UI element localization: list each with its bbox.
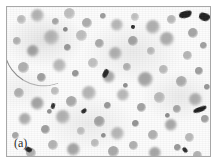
- debris-particle: [182, 146, 189, 153]
- cell-blob: [160, 32, 174, 46]
- debris-particle: [131, 25, 135, 29]
- cell-blob: [109, 47, 122, 60]
- cell-blob: [47, 109, 52, 114]
- cell-blob: [13, 37, 21, 45]
- cell-blob: [31, 9, 44, 22]
- cell-blob: [91, 139, 99, 147]
- cell-blob: [88, 58, 98, 68]
- debris-particle: [198, 12, 210, 22]
- cell-blob: [123, 83, 128, 88]
- fiber-artifact: [7, 44, 58, 95]
- cell-blob: [27, 45, 39, 57]
- cell-blob: [137, 103, 146, 112]
- cell-blob: [188, 28, 198, 38]
- cell-blob: [82, 86, 96, 100]
- cell-blob: [100, 13, 106, 19]
- cell-blob: [154, 92, 165, 103]
- cell-blob: [123, 63, 131, 71]
- figure-panel: (a): [0, 0, 217, 164]
- cell-blob: [148, 130, 158, 140]
- film-grain-overlay: [7, 7, 210, 156]
- cell-blob: [18, 62, 29, 73]
- cell-blob: [128, 36, 138, 46]
- cell-blob: [165, 119, 177, 131]
- cell-blob: [77, 127, 85, 135]
- cell-blob: [103, 71, 115, 83]
- cell-blob: [159, 65, 168, 74]
- cell-blob: [44, 30, 59, 45]
- cell-blob: [165, 113, 170, 118]
- cell-blob: [72, 70, 79, 77]
- cell-blob: [64, 44, 71, 51]
- cell-blob: [111, 19, 123, 31]
- cell-blob: [111, 127, 124, 140]
- cell-blob: [146, 20, 160, 34]
- cell-blob: [63, 27, 68, 32]
- cell-blob: [201, 115, 209, 123]
- cell-blob: [101, 133, 106, 138]
- cell-blob: [132, 120, 139, 127]
- cell-blob: [108, 146, 119, 157]
- cell-blob: [31, 97, 44, 110]
- micrograph-frame: (a): [6, 6, 211, 157]
- cell-blob: [117, 89, 129, 101]
- cell-blob: [56, 110, 70, 124]
- cell-blob: [66, 96, 77, 107]
- cell-blob: [41, 125, 50, 134]
- cell-blob: [129, 141, 138, 150]
- cell-blob: [167, 15, 176, 24]
- debris-particle: [50, 103, 55, 110]
- cell-blob: [37, 73, 46, 82]
- cell-blob: [67, 143, 80, 156]
- cell-blob: [14, 88, 24, 98]
- cell-blob: [51, 87, 59, 95]
- cell-blob: [48, 140, 58, 150]
- cell-blob: [174, 144, 181, 151]
- cell-blob: [183, 51, 192, 60]
- cell-blob: [95, 39, 104, 48]
- cell-blob: [19, 113, 31, 125]
- cell-blob: [76, 30, 87, 41]
- cell-blob: [52, 18, 59, 25]
- cell-blob: [176, 76, 187, 87]
- cell-blob: [189, 93, 202, 106]
- cell-blob: [82, 18, 92, 28]
- debris-particle: [193, 105, 208, 115]
- cell-blob: [173, 105, 181, 113]
- cell-blob: [149, 147, 161, 156]
- debris-particle: [178, 9, 193, 20]
- cell-blob: [104, 102, 111, 109]
- debris-particle: [80, 108, 87, 115]
- cell-blob: [185, 133, 194, 142]
- cell-blob: [26, 148, 36, 156]
- panel-label: (a): [14, 137, 27, 149]
- cell-blob: [147, 47, 155, 55]
- cell-blob: [17, 15, 26, 24]
- debris-particle: [101, 68, 109, 78]
- cell-blob: [53, 59, 66, 72]
- cell-blob: [64, 8, 75, 19]
- cell-blob: [193, 151, 202, 157]
- cell-blob: [204, 84, 210, 90]
- cell-blob: [94, 116, 105, 127]
- micrograph-image: [7, 7, 210, 156]
- cell-blob: [131, 13, 139, 21]
- cell-blob: [195, 67, 203, 75]
- cell-blob: [138, 72, 153, 87]
- cell-blob: [200, 42, 207, 49]
